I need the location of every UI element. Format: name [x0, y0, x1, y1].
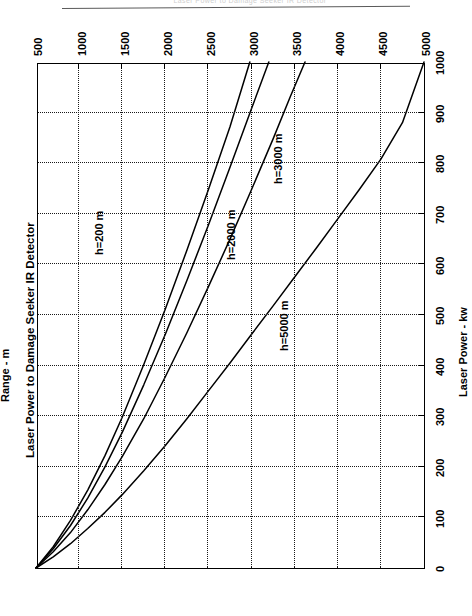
- curve-label-0: h=200 m: [93, 211, 105, 255]
- curve-h-200-m: [36, 62, 424, 568]
- tick-range: [78, 64, 79, 69]
- gridline-power: [38, 263, 424, 264]
- tick-range: [207, 64, 208, 69]
- gridline-power: [38, 314, 424, 315]
- gridline-range: [78, 64, 79, 568]
- page-header-text: Laser Power to Damage Seeker IR Detector: [150, 0, 350, 7]
- gridline-range: [251, 64, 252, 568]
- ytick-label-100: 100: [434, 509, 446, 527]
- ytick-label-900: 900: [434, 105, 446, 123]
- xtick-label-4000: 4000: [334, 32, 346, 56]
- figure-rotated-container: 5001000150020002500300035004000450050000…: [0, 16, 472, 612]
- ytick-label-800: 800: [434, 155, 446, 173]
- curve-h-2000-m: [36, 62, 305, 568]
- tick-range: [423, 64, 424, 69]
- gridline-power: [38, 112, 424, 113]
- gridline-power: [38, 415, 424, 416]
- tick-power: [419, 61, 424, 62]
- tick-power: [419, 314, 424, 315]
- tick-power: [419, 466, 424, 467]
- gridline-range: [121, 64, 122, 568]
- chart-figure: 5001000150020002500300035004000450050000…: [0, 16, 472, 612]
- xtick-label-1000: 1000: [76, 32, 88, 56]
- gridline-range: [294, 64, 295, 568]
- tick-range: [35, 64, 36, 69]
- tick-power: [419, 415, 424, 416]
- tick-power: [419, 365, 424, 366]
- tick-power: [419, 263, 424, 264]
- xtick-label-3000: 3000: [248, 32, 260, 56]
- xtick-label-4500: 4500: [377, 32, 389, 56]
- tick-power: [419, 567, 424, 568]
- y-axis-title: Laser Power - kw: [457, 307, 469, 397]
- xtick-label-500: 500: [33, 38, 45, 56]
- gridline-power: [38, 516, 424, 517]
- xtick-label-5000: 5000: [421, 32, 433, 56]
- gridline-range: [380, 64, 381, 568]
- xtick-label-3500: 3500: [291, 32, 303, 56]
- tick-range: [164, 64, 165, 69]
- xtick-label-2000: 2000: [162, 32, 174, 56]
- gridline-power: [38, 466, 424, 467]
- ytick-label-600: 600: [434, 256, 446, 274]
- curve-h-3000-m: [36, 62, 269, 568]
- tick-range: [294, 64, 295, 69]
- ytick-label-700: 700: [434, 206, 446, 224]
- ytick-label-1000: 1000: [434, 51, 446, 75]
- ytick-label-500: 500: [434, 307, 446, 325]
- tick-power: [419, 516, 424, 517]
- tick-power: [419, 112, 424, 113]
- xtick-label-1500: 1500: [119, 32, 131, 56]
- tick-power: [419, 162, 424, 163]
- tick-range: [121, 64, 122, 69]
- ytick-label-200: 200: [434, 459, 446, 477]
- gridline-range: [337, 64, 338, 568]
- tick-range: [380, 64, 381, 69]
- tick-range: [337, 64, 338, 69]
- gridline-range: [164, 64, 165, 568]
- gridline-range: [207, 64, 208, 568]
- curves-layer: [36, 62, 424, 568]
- x-axis-title: Range - m: [0, 349, 11, 402]
- ytick-label-400: 400: [434, 358, 446, 376]
- ytick-label-0: 0: [434, 566, 446, 572]
- curve-label-2: h=3000 m: [272, 134, 284, 184]
- curve-h-5000-m: [36, 62, 250, 568]
- curve-label-1: h=2000 m: [225, 210, 237, 260]
- gridline-power: [38, 365, 424, 366]
- tick-range: [251, 64, 252, 69]
- xtick-label-2500: 2500: [205, 32, 217, 56]
- curve-label-3: h=5000 m: [278, 301, 290, 351]
- ytick-label-300: 300: [434, 408, 446, 426]
- plot-area: [37, 63, 425, 569]
- gridline-power: [38, 162, 424, 163]
- chart-title: Laser Power to Damage Seeker IR Detector: [24, 222, 36, 458]
- tick-power: [419, 213, 424, 214]
